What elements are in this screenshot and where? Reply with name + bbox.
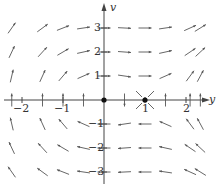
arrowhead-icon [128, 27, 131, 29]
v-tick-label: −1 [88, 118, 104, 129]
arrowhead-icon [62, 94, 64, 97]
arrowhead-icon [57, 170, 60, 172]
arrowhead-icon [149, 75, 152, 77]
equilibrium-point [101, 97, 106, 102]
arrowhead-icon [149, 51, 152, 53]
saddle-arrow [148, 91, 154, 97]
arrowhead-icon [189, 94, 191, 97]
arrowhead-icon [164, 94, 166, 97]
x-tick-label: 1 [142, 103, 149, 114]
arrowhead-icon [108, 27, 111, 29]
arrowhead-icon [66, 26, 69, 28]
arrowhead-icon [82, 94, 84, 97]
arrowhead-icon [108, 51, 111, 53]
arrowhead-icon [199, 94, 201, 97]
arrowhead-icon [139, 171, 142, 173]
x-tick-label: −2 [13, 103, 29, 114]
arrowhead-icon [128, 51, 131, 53]
v-axis-arrowhead-icon [102, 3, 107, 11]
x-tick-label: 2 [183, 103, 190, 114]
y-axis-label: y [209, 94, 215, 105]
arrowhead-icon [139, 147, 142, 149]
arrowhead-icon [123, 104, 125, 107]
arrowhead-icon [41, 94, 43, 97]
v-axis-label: v [110, 2, 116, 13]
arrowhead-icon [149, 27, 152, 29]
v-tick-label: 2 [94, 46, 101, 57]
arrowhead-icon [108, 75, 111, 77]
direction-field-plot [0, 0, 221, 187]
phase-plane-figure: v y −2−112321−1−2−3 [0, 0, 221, 187]
v-tick-label: 3 [94, 22, 101, 33]
arrowhead-icon [118, 147, 121, 149]
v-tick-label: −3 [88, 166, 104, 177]
saddle-arrow [136, 91, 142, 97]
arrowhead-icon [11, 94, 13, 97]
arrowhead-icon [118, 171, 121, 173]
v-tick-label: 1 [94, 70, 101, 81]
x-tick-label: −1 [54, 103, 70, 114]
v-tick-label: −2 [88, 142, 104, 153]
arrowhead-icon [139, 123, 142, 125]
